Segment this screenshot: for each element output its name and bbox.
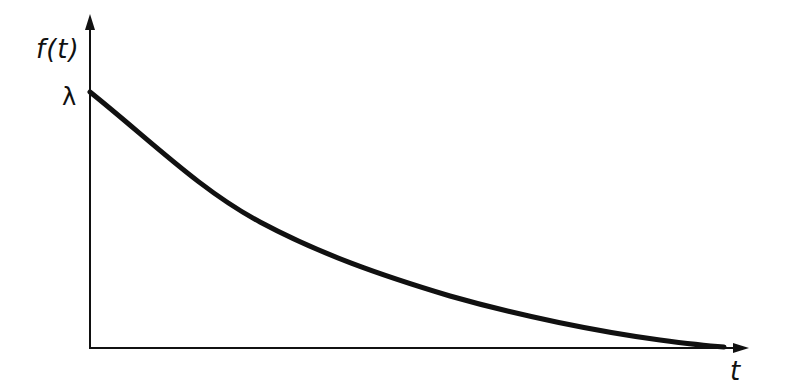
y-intercept-label: λ — [62, 83, 76, 111]
density-curve — [90, 92, 724, 347]
exponential-density-chart — [0, 0, 786, 392]
y-axis-arrowhead-icon — [85, 14, 95, 30]
y-axis-label: f(t) — [36, 34, 80, 64]
x-axis-label: t — [730, 356, 740, 386]
x-axis-arrowhead-icon — [733, 343, 749, 353]
